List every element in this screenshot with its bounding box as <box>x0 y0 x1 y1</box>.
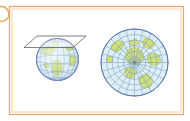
diagram-canvas <box>0 0 190 121</box>
polar-azimuthal-map <box>101 29 168 96</box>
pole-center-point <box>133 61 135 63</box>
figure-container <box>0 0 190 121</box>
list-bullet-icon <box>0 7 9 22</box>
